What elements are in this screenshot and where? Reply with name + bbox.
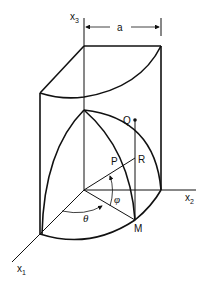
theta-arc	[62, 206, 102, 213]
point-P-label: P	[111, 156, 118, 167]
x1-axis	[12, 190, 84, 262]
top-edge-left	[40, 46, 84, 93]
theta-label: θ	[83, 212, 89, 224]
point-Q-label: Q	[123, 115, 131, 126]
dome-meridian-middle	[84, 110, 135, 220]
base-arc	[40, 190, 161, 240]
phi-label: φ	[114, 193, 120, 205]
point-R-label: R	[138, 154, 145, 165]
radius-to-M	[84, 190, 135, 220]
x1-label: x1	[17, 263, 26, 276]
point-M-label: M	[134, 223, 142, 234]
x3-label: x3	[70, 11, 79, 24]
point-Q	[133, 118, 137, 122]
phi-arc	[110, 176, 113, 206]
radius-to-R	[84, 158, 135, 190]
x2-label: x2	[185, 192, 194, 205]
dimension-a-label: a	[117, 22, 123, 33]
top-face-arc	[40, 46, 161, 98]
dome-meridian-left	[42, 110, 84, 234]
diagram-canvas: x3 x2 x1 a Q P R M φ θ	[0, 0, 207, 282]
